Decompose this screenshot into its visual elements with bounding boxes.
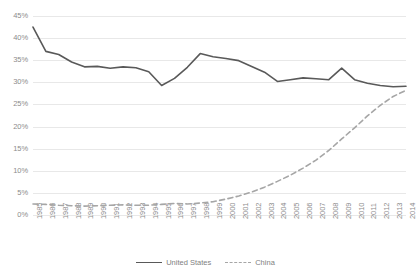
legend-item-china[interactable]: China <box>225 258 275 267</box>
legend-item-united-states[interactable]: United States <box>136 258 211 267</box>
legend-label: United States <box>166 258 211 267</box>
legend-swatch-icon <box>136 262 162 263</box>
legend-label: China <box>255 258 275 267</box>
chart-legend: United StatesChina <box>0 258 411 267</box>
legend-swatch-icon <box>225 262 251 263</box>
series-line-china <box>33 90 406 206</box>
series-line-united-states <box>33 27 406 87</box>
